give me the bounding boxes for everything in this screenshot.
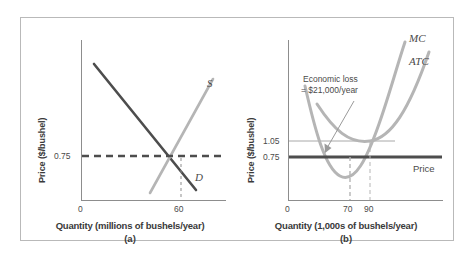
- panel-b-x-tick-90: 90: [364, 204, 373, 214]
- panel-b: Price ($/bushel) Economic loss = $21,000…: [239, 18, 453, 242]
- figure-container: Price ($/bushel) S D 0.75 0 60 Quantity …: [20, 17, 454, 241]
- panel-b-y-tick-075: 0.75: [263, 152, 280, 162]
- panel-a: Price ($/bushel) S D 0.75 0 60 Quantity …: [21, 18, 239, 242]
- economic-loss-annotation-line1: Economic loss: [303, 74, 358, 85]
- panel-b-x-axis-title: Quantity (1,000s of bushels/year): [239, 220, 453, 231]
- economic-loss-annotation-line2: = $21,000/year: [301, 85, 358, 96]
- panel-a-x-tick-0: 0: [78, 204, 83, 214]
- panel-a-x-tick-60: 60: [174, 204, 183, 214]
- curve-label-mc: MC: [409, 32, 426, 44]
- panel-a-tag: (a): [21, 233, 239, 244]
- panel-a-x-axis-title: Quantity (millions of bushels/year): [21, 220, 239, 231]
- price-line-label: Price: [413, 163, 435, 174]
- panel-b-x-tick-0: 0: [285, 204, 290, 214]
- panel-a-y-tick-075: 0.75: [54, 151, 71, 161]
- panel-b-y-tick-105: 1.05: [263, 136, 280, 146]
- supply-curve-s: [150, 79, 213, 193]
- panel-a-plot-area: [21, 18, 239, 242]
- annotation-arrowhead: [325, 144, 332, 154]
- curve-label-atc: ATC: [409, 55, 429, 67]
- panel-b-x-tick-70: 70: [343, 204, 352, 214]
- curve-label-s: S: [207, 77, 213, 89]
- curve-label-d: D: [195, 171, 203, 183]
- panel-b-tag: (b): [239, 233, 453, 244]
